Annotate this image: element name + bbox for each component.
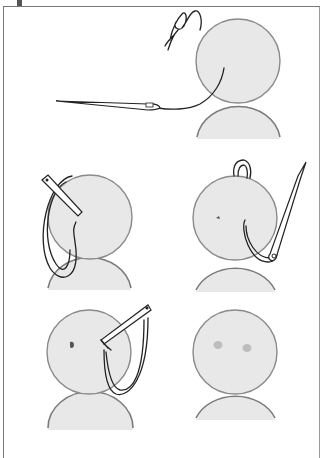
needle-icon — [56, 101, 160, 110]
panel-1 — [56, 11, 280, 139]
panel-2 — [42, 175, 132, 290]
panel-3 — [193, 160, 306, 292]
sewing-diagram: .head { fill: #e8e8e8; stroke: #8a8a8a; … — [0, 0, 321, 458]
panel-5 — [193, 310, 277, 420]
panel-4 — [47, 305, 151, 430]
